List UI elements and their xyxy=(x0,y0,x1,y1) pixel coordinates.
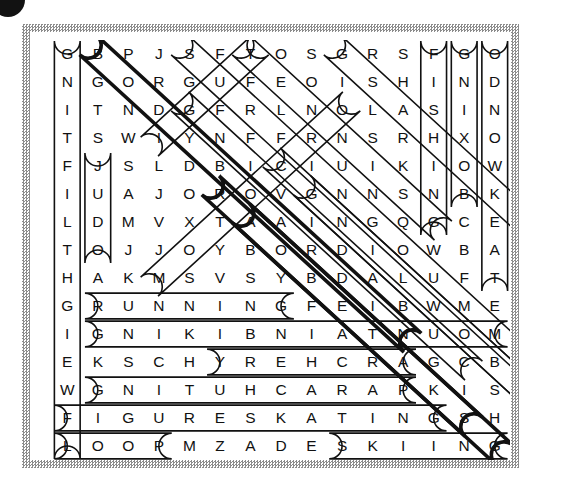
grid-cell: M xyxy=(144,264,175,292)
grid-cell: N xyxy=(235,292,266,320)
grid-cell: L xyxy=(144,152,175,180)
grid-cell: I xyxy=(144,376,175,404)
grid-cell: R xyxy=(296,124,327,152)
grid-cell: O xyxy=(449,152,480,180)
grid-cell: E xyxy=(205,404,236,432)
grid-cell: O xyxy=(327,96,358,124)
grid-cell: A xyxy=(235,208,266,236)
grid-cell: D xyxy=(327,264,358,292)
grid-cell: E xyxy=(266,348,297,376)
grid-cell: I xyxy=(83,404,114,432)
grid-cell: N xyxy=(418,180,449,208)
grid-cell: A xyxy=(296,376,327,404)
grid-cell: O xyxy=(174,236,205,264)
grid-cell: G xyxy=(357,208,388,236)
grid-cell: N xyxy=(113,376,144,404)
grid-cell: G xyxy=(52,292,83,320)
grid-cell: R xyxy=(83,292,114,320)
grid-cell: T xyxy=(327,404,358,432)
grid-cell: N xyxy=(388,320,419,348)
grid-cell: S xyxy=(235,404,266,432)
grid-cell: N xyxy=(205,124,236,152)
grid-cell: S xyxy=(449,404,480,432)
grid-cell: M xyxy=(479,320,510,348)
grid-cell: J xyxy=(144,40,175,68)
corner-dot-marker xyxy=(0,0,25,17)
grid-cell: G xyxy=(418,348,449,376)
grid-cell: N xyxy=(174,292,205,320)
grid-cell: C xyxy=(266,152,297,180)
grid-cell: O xyxy=(266,236,297,264)
grid-cell: T xyxy=(479,264,510,292)
grid-cell: J xyxy=(83,152,114,180)
grid-cell: Z xyxy=(205,432,236,460)
grid-cell: R xyxy=(327,376,358,404)
grid-cell: D xyxy=(266,432,297,460)
grid-cell: W xyxy=(479,152,510,180)
grid-cell: C xyxy=(144,348,175,376)
grid-cell: B xyxy=(205,152,236,180)
grid-cell: I xyxy=(388,432,419,460)
grid-cell: H xyxy=(418,124,449,152)
grid-cell: N xyxy=(266,320,297,348)
grid-cell: D xyxy=(83,208,114,236)
grid-cell: K xyxy=(83,348,114,376)
grid-cell: T xyxy=(235,40,266,68)
grid-cell: M xyxy=(449,292,480,320)
grid-cell: G xyxy=(83,376,114,404)
grid-cell: S xyxy=(479,376,510,404)
grid-cell: K xyxy=(357,432,388,460)
grid-cell: G xyxy=(113,404,144,432)
grid-cell: N xyxy=(479,96,510,124)
grid-cell: R xyxy=(296,236,327,264)
grid-cell: S xyxy=(296,40,327,68)
grid-cell: U xyxy=(418,320,449,348)
grid-cell: I xyxy=(357,292,388,320)
grid-cell: A xyxy=(113,180,144,208)
grid-cell: S xyxy=(388,40,419,68)
grid-cell: S xyxy=(235,264,266,292)
grid-cell: S xyxy=(327,432,358,460)
grid-cell: G xyxy=(327,40,358,68)
grid-cell: F xyxy=(235,124,266,152)
grid-cell: G xyxy=(83,68,114,96)
grid-cell: I xyxy=(449,376,480,404)
grid-cell: I xyxy=(418,152,449,180)
grid-cell: S xyxy=(388,180,419,208)
grid-cell: G xyxy=(266,292,297,320)
grid-cell: I xyxy=(449,96,480,124)
grid-cell: S xyxy=(83,124,114,152)
grid-cell: B xyxy=(83,40,114,68)
grid-cell: F xyxy=(205,40,236,68)
grid-cell: Y xyxy=(174,124,205,152)
grid-cell: A xyxy=(388,96,419,124)
grid-cell: O xyxy=(174,180,205,208)
grid-cell: G xyxy=(83,320,114,348)
grid-cell: F xyxy=(235,68,266,96)
grid-cell: G xyxy=(52,40,83,68)
grid-cell: O xyxy=(113,68,144,96)
grid-cell: V xyxy=(266,180,297,208)
grid-cell: W xyxy=(113,124,144,152)
grid-cell: W xyxy=(52,376,83,404)
grid-cell: K xyxy=(113,264,144,292)
grid-cell: G xyxy=(479,432,510,460)
grid-cell: E xyxy=(266,68,297,96)
grid-cell: S xyxy=(113,348,144,376)
grid-cell: Q xyxy=(388,208,419,236)
grid-cell: A xyxy=(266,208,297,236)
grid-cell: I xyxy=(52,96,83,124)
grid-cell: F xyxy=(52,404,83,432)
grid-cell: F xyxy=(205,96,236,124)
grid-cell: A xyxy=(388,348,419,376)
grid-cell: A xyxy=(235,432,266,460)
grid-cell: C xyxy=(449,208,480,236)
grid-cell: I xyxy=(357,404,388,432)
grid-cell: I xyxy=(357,236,388,264)
grid-cell: G xyxy=(418,404,449,432)
grid-cell: I xyxy=(205,320,236,348)
grid-cell: O xyxy=(479,124,510,152)
grid-cell: H xyxy=(174,348,205,376)
grid-cell: F xyxy=(52,152,83,180)
grid-cell: G xyxy=(174,68,205,96)
